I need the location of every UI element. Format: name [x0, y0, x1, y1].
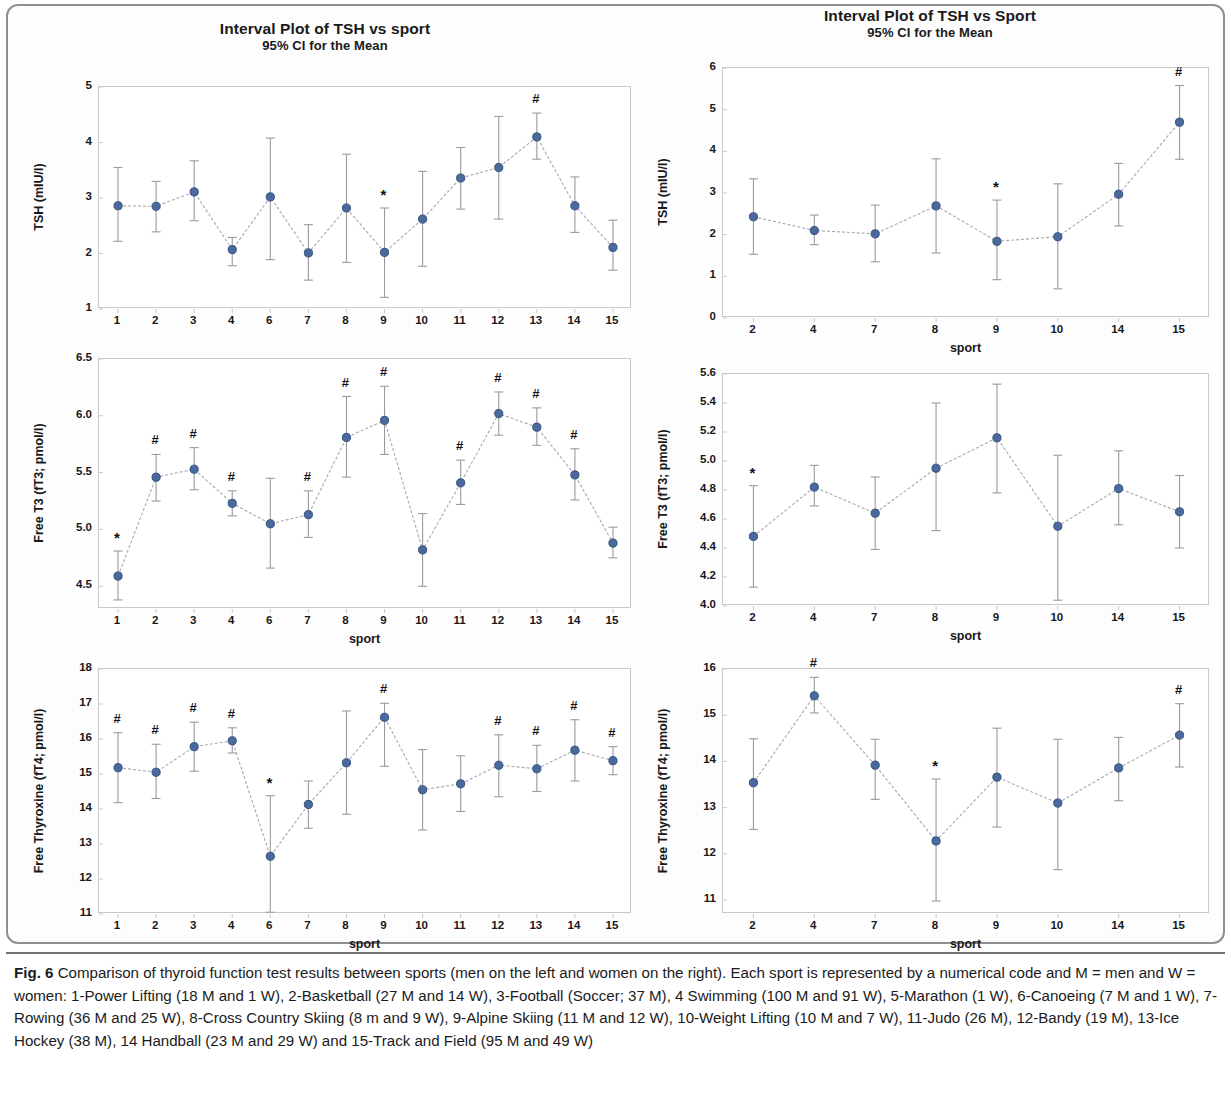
x-tick-label: 2 — [139, 919, 171, 931]
significance-marker-9: # — [374, 682, 394, 695]
x-tick-label: 1 — [101, 314, 133, 326]
data-point-2 — [749, 739, 758, 830]
data-point-7 — [871, 477, 880, 550]
plot-area-ft4-men — [98, 668, 631, 913]
data-point-1 — [114, 167, 123, 241]
significance-marker-9: * — [374, 187, 394, 202]
y-tick-label: 16 — [56, 731, 92, 743]
y-tick-label: 4.6 — [680, 511, 716, 523]
data-point-9 — [992, 200, 1001, 280]
y-tick-label: 12 — [56, 871, 92, 883]
x-tick-label: 14 — [558, 919, 590, 931]
data-point-12 — [494, 735, 503, 797]
data-point-10 — [418, 514, 427, 587]
x-tick-label: 4 — [797, 323, 829, 335]
y-tick-label: 4.5 — [56, 578, 92, 590]
x-tick-label: 9 — [368, 314, 400, 326]
plot-svg-ft3-men — [99, 359, 632, 609]
x-tick-label: 8 — [329, 919, 361, 931]
data-point-14 — [1114, 451, 1123, 525]
y-axis-label-tsh-women: TSH (mIU/l) — [656, 158, 670, 225]
significance-marker-9: # — [374, 365, 394, 378]
x-tick-label: 7 — [291, 614, 323, 626]
x-tick-label: 2 — [139, 614, 171, 626]
plot-svg-tsh-men — [99, 87, 632, 309]
data-point-15 — [1175, 86, 1184, 160]
data-point-14 — [1114, 163, 1123, 226]
data-point-12 — [494, 116, 503, 219]
y-tick-label: 2 — [680, 227, 716, 239]
data-point-15 — [608, 527, 617, 558]
data-point-15 — [1175, 476, 1184, 549]
y-axis-label-tsh-men: TSH (mIU/l) — [32, 163, 46, 230]
significance-marker-3: # — [183, 427, 203, 440]
data-point-8 — [342, 397, 351, 478]
significance-marker-7: # — [297, 470, 317, 483]
plot-area-ft3-men — [98, 358, 631, 608]
y-tick-label: 12 — [680, 846, 716, 858]
x-tick-label: 11 — [444, 919, 476, 931]
y-tick-label: 6.5 — [56, 351, 92, 363]
significance-marker-14: # — [564, 699, 584, 712]
x-tick-label: 11 — [444, 614, 476, 626]
plot-area-tsh-women — [722, 67, 1209, 317]
figure-container: Interval Plot of TSH vs sport95% CI for … — [0, 0, 1231, 1107]
significance-marker-4: # — [803, 656, 823, 669]
y-tick-label: 4.2 — [680, 569, 716, 581]
x-tick-label: 10 — [406, 919, 438, 931]
significance-marker-12: # — [488, 371, 508, 384]
data-point-2 — [749, 486, 758, 588]
data-point-7 — [304, 491, 313, 538]
x-tick-label: 10 — [1041, 323, 1073, 335]
data-point-2 — [749, 179, 758, 254]
x-tick-label: 3 — [177, 314, 209, 326]
x-tick-label: 8 — [329, 314, 361, 326]
y-axis-label-ft3-men: Free T3 (fT3; pmol/l) — [32, 423, 46, 542]
y-tick-label: 13 — [680, 800, 716, 812]
data-point-9 — [992, 384, 1001, 493]
x-tick-label: 15 — [1163, 919, 1195, 931]
significance-marker-15: # — [602, 726, 622, 739]
y-tick-label: 5.0 — [680, 453, 716, 465]
data-point-9 — [380, 386, 389, 454]
y-tick-label: 6 — [680, 60, 716, 72]
x-tick-label: 13 — [520, 614, 552, 626]
data-point-10 — [1053, 184, 1062, 289]
x-tick-label: 9 — [368, 919, 400, 931]
significance-marker-15: # — [1169, 65, 1189, 78]
y-tick-label: 5.5 — [56, 465, 92, 477]
data-point-4 — [228, 237, 237, 265]
chart-panel-tsh-women: Interval Plot of TSH vs Sport95% CI for … — [640, 5, 1220, 345]
data-point-11 — [456, 756, 465, 812]
x-tick-label: 2 — [139, 314, 171, 326]
y-tick-label: 18 — [56, 661, 92, 673]
y-tick-label: 1 — [680, 268, 716, 280]
x-tick-label: 10 — [1041, 919, 1073, 931]
x-tick-label: 9 — [980, 919, 1012, 931]
data-point-8 — [342, 711, 351, 814]
x-tick-label: 7 — [291, 919, 323, 931]
y-tick-label: 15 — [680, 707, 716, 719]
x-axis-label-ft3-women: sport — [722, 629, 1209, 643]
significance-marker-9: * — [986, 179, 1006, 194]
data-point-7 — [871, 205, 880, 262]
data-point-15 — [608, 747, 617, 775]
x-tick-label: 6 — [253, 614, 285, 626]
x-tick-label: 1 — [101, 919, 133, 931]
data-point-1 — [114, 551, 123, 600]
significance-marker-8: * — [925, 758, 945, 773]
plot-svg-ft4-men — [99, 669, 632, 914]
x-tick-label: 10 — [406, 614, 438, 626]
significance-marker-14: # — [564, 428, 584, 441]
x-tick-label: 14 — [1102, 323, 1134, 335]
y-tick-label: 4.4 — [680, 540, 716, 552]
data-point-3 — [190, 161, 199, 221]
y-axis-label-ft4-men: Free Thyroxine (fT4; pmol/l) — [32, 708, 46, 873]
data-point-6 — [266, 796, 275, 913]
chart-panel-ft4-women: 11121314151624789101415Free Thyroxine (f… — [640, 655, 1220, 955]
y-tick-label: 5.4 — [680, 395, 716, 407]
y-tick-label: 11 — [680, 892, 716, 904]
significance-marker-6: * — [259, 775, 279, 790]
chart-title-main: Interval Plot of TSH vs sport — [20, 20, 630, 38]
plot-svg-tsh-women — [723, 68, 1210, 318]
